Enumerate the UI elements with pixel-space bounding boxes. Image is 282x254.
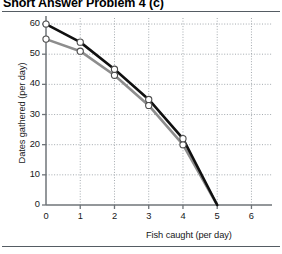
grid-vertical-lines bbox=[80, 18, 251, 205]
x-axis-tick-label: 0 bbox=[34, 211, 58, 221]
x-axis-tick-label: 1 bbox=[68, 211, 92, 221]
footer-divider bbox=[2, 246, 280, 247]
data-series-layer bbox=[46, 24, 217, 205]
y-axis-title: Dates gathered (per day) bbox=[17, 43, 27, 183]
x-axis-tick-label: 2 bbox=[102, 211, 126, 221]
y-axis-tick-label: 60 bbox=[4, 18, 40, 28]
x-axis-tick-label: 4 bbox=[171, 211, 195, 221]
x-axis-tick-label: 6 bbox=[239, 211, 263, 221]
chart-container: 0102030405060 0123456 Dates gathered (pe… bbox=[0, 12, 282, 246]
page-title: Short Answer Problem 4 (c) bbox=[3, 0, 164, 10]
x-axis-title: Fish caught (per day) bbox=[146, 230, 232, 240]
y-axis-tick-label: 0 bbox=[4, 199, 40, 209]
x-axis-tick-label: 3 bbox=[137, 211, 161, 221]
x-axis-tick-label: 5 bbox=[205, 211, 229, 221]
